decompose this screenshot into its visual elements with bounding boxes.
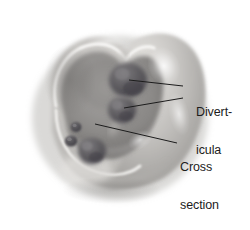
middle-diverticulum-pouch (108, 97, 136, 123)
figure-root: Divert- icula Cross section of colon (0, 0, 250, 230)
diverticulum-opening-small-upper (71, 122, 82, 132)
upper-diverticulum-pouch (109, 63, 147, 97)
label-cross-section: Cross section of colon (180, 136, 223, 230)
label-cross-section-line-2: section (180, 199, 223, 212)
label-diverticula-line-1: Divert- (196, 106, 232, 119)
lower-diverticulum-pouch (78, 138, 106, 164)
label-cross-section-line-1: Cross (180, 161, 223, 174)
diverticulum-opening-small-lower (65, 135, 77, 146)
